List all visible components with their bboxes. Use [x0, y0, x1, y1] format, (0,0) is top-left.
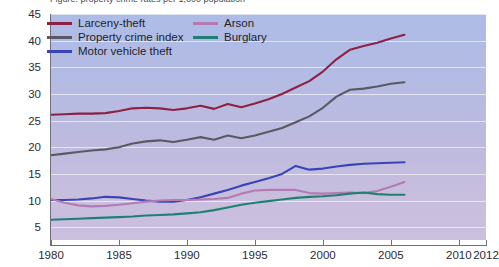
legend-swatch-icon [47, 22, 72, 25]
x-tick-label: 1980 [38, 249, 64, 261]
x-tick [187, 240, 188, 246]
x-tick [51, 240, 52, 246]
legend-label: Motor vehicle theft [78, 45, 172, 58]
legend-label: Arson [224, 17, 254, 30]
x-axis-line [50, 245, 486, 246]
x-tick-label: 2000 [310, 249, 336, 261]
legend-entry[interactable]: Larceny-theft [47, 17, 145, 30]
y-tick-label: 10 [28, 195, 41, 207]
x-tick-label: 1985 [106, 249, 132, 261]
y-tick-label: 25 [28, 115, 41, 127]
x-tick-label: 2012 [473, 249, 499, 261]
y-tick-label: 15 [28, 168, 41, 180]
x-tick-label: 1995 [242, 249, 268, 261]
y-axis-labels: 51015202530354045 [0, 0, 48, 267]
y-tick-label: 35 [28, 61, 41, 73]
x-tick-label: 2005 [378, 249, 404, 261]
legend-entry[interactable]: Property crime index [47, 31, 183, 44]
legend-entry[interactable]: Burglary [193, 31, 267, 44]
legend-swatch-icon [193, 36, 218, 39]
legend-label: Property crime index [78, 31, 183, 44]
y-tick-label: 40 [28, 35, 41, 47]
legend-swatch-icon [47, 36, 72, 39]
x-tick [255, 240, 256, 246]
chart-title-cropped: Figure: property crime rates per 1,000 p… [50, 0, 310, 6]
legend-label: Burglary [224, 31, 267, 44]
legend-swatch-icon [193, 22, 218, 25]
legend-label: Larceny-theft [78, 17, 145, 30]
series-line-property-crime-index [51, 82, 404, 155]
legend-entry[interactable]: Arson [193, 17, 254, 30]
y-tick-label: 30 [28, 88, 41, 100]
y-tick-label: 20 [28, 141, 41, 153]
legend-swatch-icon [47, 50, 72, 53]
x-tick [391, 240, 392, 246]
x-tick [323, 240, 324, 246]
chart-legend: Larceny-theftProperty crime indexMotor v… [47, 17, 347, 61]
series-line-motor-vehicle-theft [51, 162, 404, 201]
y-tick-label: 45 [28, 8, 41, 20]
x-tick [486, 240, 487, 246]
chart-title-text: Figure: property crime rates per 1,000 p… [50, 0, 310, 5]
legend-entry[interactable]: Motor vehicle theft [47, 45, 172, 58]
x-tick [459, 240, 460, 246]
x-tick [119, 240, 120, 246]
x-tick-label: 1990 [174, 249, 200, 261]
y-tick-label: 5 [35, 221, 41, 233]
x-tick-label: 2010 [446, 249, 472, 261]
